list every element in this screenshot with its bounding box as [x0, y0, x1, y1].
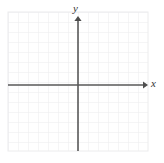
coordinate-plane-svg — [0, 0, 164, 163]
coordinate-grid-figure: y x — [0, 0, 164, 163]
x-axis-label: x — [151, 78, 156, 89]
y-axis-label: y — [73, 3, 78, 14]
